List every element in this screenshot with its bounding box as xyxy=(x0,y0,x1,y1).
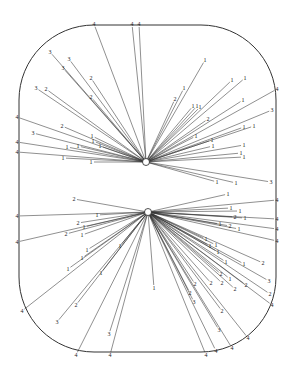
edge-label: 3 xyxy=(268,278,271,284)
edge-label: 2 xyxy=(65,231,68,237)
edge-label: 2 xyxy=(220,271,223,277)
edge-label: 2 xyxy=(229,223,232,229)
edge-label: 2 xyxy=(207,116,210,122)
edge-label: 1 xyxy=(192,103,195,109)
edge-label: 3 xyxy=(193,299,196,305)
edge-label: 2 xyxy=(262,260,265,266)
edge-line xyxy=(111,212,148,352)
edge-label: 1 xyxy=(83,224,86,230)
edge-label: 1 xyxy=(253,123,256,129)
edge-label: 1 xyxy=(243,142,246,148)
edge-label: 4 xyxy=(75,352,78,358)
edge-line xyxy=(77,200,148,212)
edge-label: 1 xyxy=(215,242,218,248)
edge-label: 2 xyxy=(269,291,272,297)
edge-label: 1 xyxy=(217,249,220,255)
edge-label: 1 xyxy=(227,191,230,197)
edge-label: 3 xyxy=(49,49,52,55)
edge-line xyxy=(146,91,183,162)
edge-label: 1 xyxy=(238,226,241,232)
edge-label: 4 xyxy=(276,216,279,222)
edge-label: 2 xyxy=(210,280,213,286)
edge-label: 1 xyxy=(239,208,242,214)
edge-label: 4 xyxy=(21,308,24,314)
edge-label: 4 xyxy=(247,335,250,341)
edge-label: 4 xyxy=(131,21,134,27)
edge-label: 1 xyxy=(99,143,102,149)
edge-label: 1 xyxy=(243,261,246,267)
edge-label: 2 xyxy=(221,308,224,314)
edge-label: 1 xyxy=(183,85,186,91)
edge-label: 1 xyxy=(66,144,69,150)
edge-label: 1 xyxy=(153,285,156,291)
network-diagram: 4443332322432111441111112111111243111111… xyxy=(0,0,292,375)
edge-label: 1 xyxy=(229,276,232,282)
edge-label: 1 xyxy=(244,75,247,81)
hub-lower xyxy=(145,209,152,216)
edge-line xyxy=(24,212,148,309)
edge-label: 2 xyxy=(75,302,78,308)
edge-line xyxy=(132,27,146,162)
edge-label: 3 xyxy=(108,331,111,337)
edge-line xyxy=(69,212,148,233)
edge-label: 1 xyxy=(96,212,99,218)
edge-label: 4 xyxy=(16,114,19,120)
hub-nodes xyxy=(143,159,152,216)
edge-label: 4 xyxy=(109,352,112,358)
edge-label: 3 xyxy=(68,56,71,62)
edge-label: 1 xyxy=(242,97,245,103)
edge-label: 1 xyxy=(230,205,233,211)
edge-label: 3 xyxy=(56,319,59,325)
edge-line xyxy=(148,200,274,212)
edge-label: 1 xyxy=(204,57,207,63)
edge-label: 4 xyxy=(276,197,279,203)
edge-label: 4 xyxy=(16,239,19,245)
edge-label: 4 xyxy=(93,21,96,27)
edge-line xyxy=(146,162,268,182)
edge-label: 3 xyxy=(270,179,273,185)
edge-label: 2 xyxy=(221,280,224,286)
edge-label: 1 xyxy=(212,143,215,149)
edge-label: 4 xyxy=(215,348,218,354)
edge-line xyxy=(148,212,215,348)
edge-lines xyxy=(20,27,275,353)
edge-label: 1 xyxy=(243,124,246,130)
edge-label: 3 xyxy=(218,327,221,333)
hub-upper xyxy=(143,159,150,166)
edge-label: 2 xyxy=(174,96,177,102)
edge-label: 4 xyxy=(138,21,141,27)
edge-label: 1 xyxy=(243,154,246,160)
edge-line xyxy=(148,212,268,292)
edge-label: 4 xyxy=(16,213,19,219)
edge-label: 1 xyxy=(244,215,247,221)
edge-label: 1 xyxy=(100,270,103,276)
edge-label: 4 xyxy=(16,139,19,145)
edge-line xyxy=(146,80,243,162)
edge-label: 1 xyxy=(231,77,234,83)
edge-line xyxy=(146,162,214,181)
edge-line xyxy=(93,81,146,162)
edge-label: 4 xyxy=(271,302,274,308)
edge-line xyxy=(148,212,154,285)
edge-label: 1 xyxy=(205,236,208,242)
edge-label: 2 xyxy=(90,75,93,81)
edge-labels: 4443332322432111441111112111111243111111… xyxy=(16,21,279,358)
edge-label: 2 xyxy=(194,281,197,287)
edge-line xyxy=(70,148,146,162)
edge-label: 3 xyxy=(32,130,35,136)
edge-label: 2 xyxy=(90,94,93,100)
edge-label: 1 xyxy=(195,133,198,139)
edge-label: 1 xyxy=(119,243,122,249)
edge-line xyxy=(148,195,225,212)
edge-label: 2 xyxy=(189,290,192,296)
edge-label: 1 xyxy=(199,104,202,110)
edge-label: 1 xyxy=(225,259,228,265)
edge-line xyxy=(110,212,148,331)
edge-label: 1 xyxy=(90,159,93,165)
edge-label: 2 xyxy=(245,282,248,288)
edge-line xyxy=(146,162,233,182)
edge-label: 2 xyxy=(45,86,48,92)
edge-label: 4 xyxy=(276,226,279,232)
edge-label: 1 xyxy=(67,266,70,272)
edge-label: 2 xyxy=(77,220,80,226)
